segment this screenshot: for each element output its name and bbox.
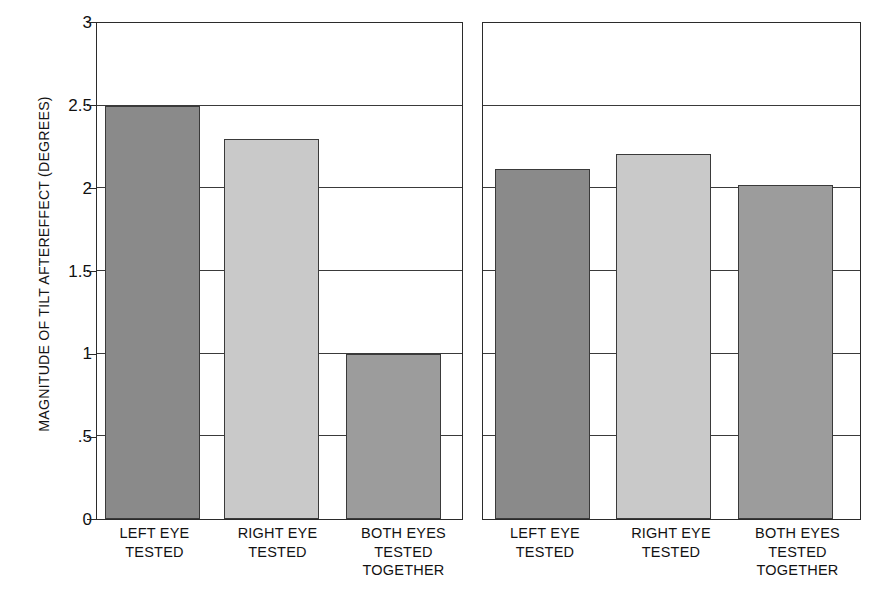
y-tick-mark-2.5 <box>87 105 96 106</box>
y-tick-label-2.5: 2.5 <box>52 97 92 114</box>
right-panel-bars <box>483 23 860 519</box>
y-tick-mark-1.5 <box>87 271 96 272</box>
y-tick-label-0: 0 <box>52 511 92 528</box>
bar-left-panel-1 <box>224 139 319 519</box>
category-label-both-eyes-together: BOTH EYES TESTED TOGETHER <box>730 524 865 580</box>
y-tick-label-1.5: 1.5 <box>52 263 92 280</box>
y-tick-mark-0 <box>87 519 96 520</box>
y-axis-tick-labels: 3 2.5 2 1.5 1 .5 0 <box>48 0 92 606</box>
y-tick-mark-1 <box>87 354 96 355</box>
y-tick-label-2: 2 <box>52 180 92 197</box>
bar-right-panel-1 <box>616 154 711 519</box>
category-label-right-eye-tested: RIGHT EYE TESTED <box>606 524 736 561</box>
bar-right-panel-2 <box>738 185 833 519</box>
bar-chart-figure: MAGNITUDE OF TILT AFTEREFFECT (DEGREES) … <box>0 0 891 606</box>
y-tick-label-1: 1 <box>52 345 92 362</box>
bar-right-panel-0 <box>495 169 590 520</box>
right-panel-plot-area <box>482 22 861 520</box>
y-tick-mark-3 <box>87 22 96 23</box>
bar-left-panel-2 <box>346 354 441 519</box>
left-panel-bars <box>97 23 462 519</box>
left-panel-category-labels: LEFT EYE TESTED RIGHT EYE TESTED BOTH EY… <box>96 524 463 604</box>
category-label-left-eye-tested: LEFT EYE TESTED <box>480 524 610 561</box>
category-label-left-eye-tested: LEFT EYE TESTED <box>92 524 217 561</box>
y-tick-mark-2 <box>87 188 96 189</box>
right-panel-category-labels: LEFT EYE TESTED RIGHT EYE TESTED BOTH EY… <box>482 524 861 604</box>
category-label-both-eyes-together: BOTH EYES TESTED TOGETHER <box>336 524 471 580</box>
y-tick-label-0.5: .5 <box>52 428 92 445</box>
category-label-right-eye-tested: RIGHT EYE TESTED <box>215 524 340 561</box>
y-tick-label-3: 3 <box>52 14 92 31</box>
bar-left-panel-0 <box>105 106 200 519</box>
y-tick-mark-0.5 <box>87 437 96 438</box>
left-panel-plot-area <box>96 22 463 520</box>
